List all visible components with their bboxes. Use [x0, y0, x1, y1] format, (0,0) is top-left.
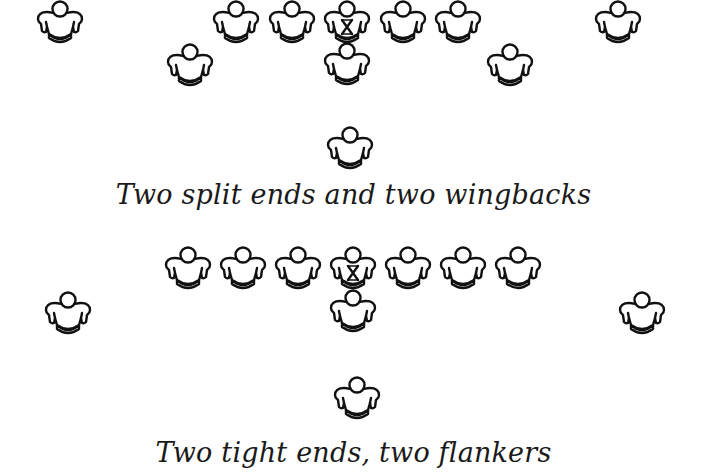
- player-lineman-icon: [378, 0, 428, 46]
- player-tight-end-right-icon: [493, 246, 543, 292]
- player-jersey-icon: [165, 43, 215, 89]
- player-split-end-left-icon: [35, 0, 85, 46]
- player-lineman-icon: [383, 246, 433, 292]
- formation-caption-2: Two tight ends, two flankers: [0, 437, 707, 468]
- player-fullback-icon: [332, 376, 382, 422]
- player-lineman-icon: [438, 246, 488, 292]
- player-center-icon: [328, 246, 378, 292]
- player-tight-end-left-icon: [163, 246, 213, 292]
- player-jersey-icon: [332, 376, 382, 422]
- player-jersey-icon: [211, 0, 261, 46]
- player-jersey-icon: [218, 246, 268, 292]
- player-jersey-icon: [378, 0, 428, 46]
- player-jersey-icon: [328, 246, 378, 292]
- player-jersey-icon: [593, 0, 643, 46]
- formation-caption-1: Two split ends and two wingbacks: [0, 179, 707, 210]
- player-split-end-right-icon: [593, 0, 643, 46]
- player-wingback-right-icon: [485, 43, 535, 89]
- player-jersey-icon: [273, 246, 323, 292]
- player-center-icon: [322, 0, 372, 46]
- player-jersey-icon: [485, 43, 535, 89]
- player-jersey-icon: [163, 246, 213, 292]
- player-flanker-left-icon: [43, 291, 93, 337]
- player-fullback-icon: [325, 126, 375, 172]
- player-jersey-icon: [43, 291, 93, 337]
- player-jersey-icon: [438, 246, 488, 292]
- player-quarterback-icon: [328, 289, 378, 335]
- player-lineman-icon: [433, 0, 483, 46]
- player-wingback-left-icon: [165, 43, 215, 89]
- player-jersey-icon: [328, 289, 378, 335]
- player-jersey-icon: [383, 246, 433, 292]
- player-lineman-icon: [273, 246, 323, 292]
- player-flanker-right-icon: [617, 291, 667, 337]
- player-quarterback-icon: [322, 42, 372, 88]
- player-lineman-icon: [218, 246, 268, 292]
- player-jersey-icon: [35, 0, 85, 46]
- player-jersey-icon: [322, 42, 372, 88]
- player-lineman-icon: [211, 0, 261, 46]
- player-jersey-icon: [433, 0, 483, 46]
- player-jersey-icon: [267, 0, 317, 46]
- player-lineman-icon: [267, 0, 317, 46]
- player-jersey-icon: [617, 291, 667, 337]
- player-jersey-icon: [322, 0, 372, 46]
- player-jersey-icon: [325, 126, 375, 172]
- player-jersey-icon: [493, 246, 543, 292]
